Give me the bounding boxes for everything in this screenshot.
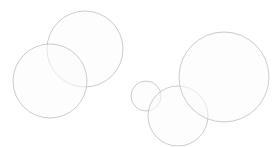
circle-diagram-svg bbox=[0, 0, 276, 147]
circle-right-large bbox=[179, 32, 269, 122]
circle-left-lower bbox=[13, 44, 87, 118]
diagram-canvas bbox=[0, 0, 276, 147]
